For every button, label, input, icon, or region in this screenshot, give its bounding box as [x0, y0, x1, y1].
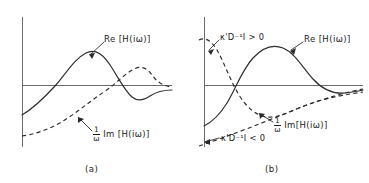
panel-b-plot — [185, 0, 369, 183]
label-re-a: Re [H(iω)] — [104, 35, 151, 44]
label-kappa-negative-b: κ'D⁻¹I < 0 — [221, 134, 265, 142]
leader-re-b — [291, 42, 303, 50]
leader-re-a — [90, 42, 104, 55]
curve-re-a — [22, 51, 172, 115]
label-re-b: Re [H(iω)] — [304, 35, 351, 44]
curve-kappa-pos-b — [199, 39, 363, 117]
caption-a: (a) — [85, 164, 98, 174]
panel-a: Re [H(iω)] 1 ω Im [H(iω)] (a) — [0, 0, 184, 183]
panel-a-plot — [0, 0, 184, 183]
label-im-a: 1 ω Im [H(iω)] — [93, 126, 150, 143]
leader-kappa-pos-b — [209, 40, 219, 50]
figure-container: Re [H(iω)] 1 ω Im [H(iω)] (a) — [0, 0, 369, 183]
label-im-text-b: Im[H(iω)] — [284, 120, 328, 130]
caption-b: (b) — [265, 164, 279, 174]
arrowhead-re-a — [89, 53, 95, 59]
fraction-one-over-omega-b: 1 ω — [274, 117, 281, 134]
fraction-denominator-a: ω — [93, 135, 100, 143]
label-im-b: 1 ω Im[H(iω)] — [274, 117, 328, 134]
fraction-one-over-omega-a: 1 ω — [93, 126, 100, 143]
label-kappa-positive-b: κ'D⁻¹I > 0 — [220, 33, 264, 41]
fraction-denominator-b: ω — [274, 126, 281, 134]
label-im-text-a: Im [H(iω)] — [103, 129, 150, 139]
panel-b: κ'D⁻¹I > 0 Re [H(iω)] 1 ω Im[H(iω)] κ'D⁻… — [185, 0, 369, 183]
